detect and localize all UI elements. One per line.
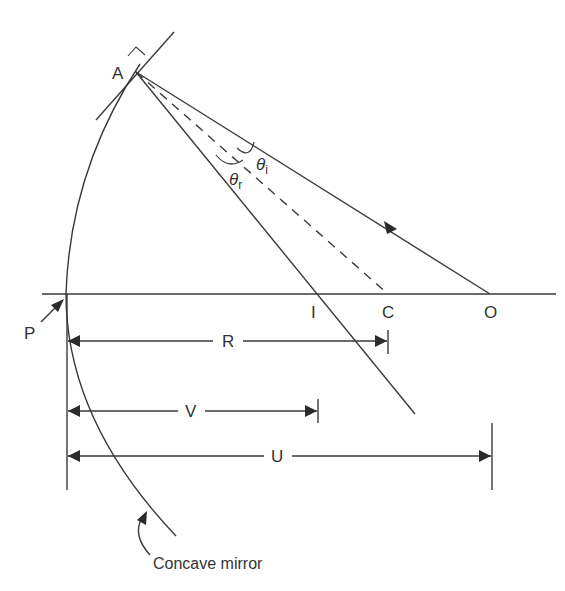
mirror-pointer-arrow-icon: [137, 511, 147, 525]
point-c-label: C: [382, 303, 394, 322]
concave-mirror-label: Concave mirror: [153, 555, 263, 572]
r-right-arrow-icon: [375, 335, 387, 347]
reflected-ray: [136, 72, 415, 414]
u-right-arrow-icon: [479, 450, 491, 462]
right-angle-marker: [128, 47, 145, 56]
point-i-label: I: [311, 303, 316, 322]
v-right-arrow-icon: [305, 405, 317, 417]
incident-ray: [136, 72, 490, 294]
v-dimension-label: V: [185, 402, 197, 421]
angle-incidence-label: θi: [256, 155, 268, 177]
point-p-label: P: [24, 324, 35, 343]
tangent-line: [96, 32, 174, 120]
v-left-arrow-icon: [68, 405, 80, 417]
u-left-arrow-icon: [68, 450, 80, 462]
incident-ray-arrow-icon: [384, 221, 397, 234]
angle-arc-reflection: [216, 155, 243, 164]
diagram-canvas: θr θi A P I C O R V U Concave mirror: [0, 0, 565, 591]
angle-reflection-label: θr: [229, 170, 242, 192]
point-a-label: A: [112, 64, 124, 83]
u-dimension-label: U: [271, 447, 283, 466]
concave-mirror-curve: [66, 64, 176, 536]
point-o-label: O: [484, 303, 497, 322]
r-dimension-label: R: [222, 332, 234, 351]
normal-line-dashed: [136, 72, 388, 294]
